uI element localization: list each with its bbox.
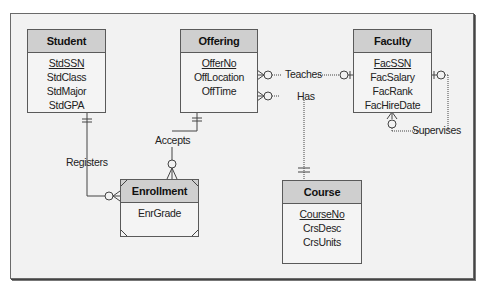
entity-title: Student xyxy=(28,30,105,53)
weak-entity-corner-icon xyxy=(190,228,198,236)
attribute: OffTime xyxy=(181,84,257,98)
entity-enrollment[interactable]: Enrollment EnrGrade xyxy=(120,179,199,237)
entity-title: Enrollment xyxy=(121,180,198,203)
attribute: CrsDesc xyxy=(283,221,361,235)
entity-attributes: OfferNo OffLocation OffTime xyxy=(181,53,257,98)
entity-attributes: FacSSN FacSalary FacRank FacHireDate xyxy=(354,53,431,112)
attribute: FacSalary xyxy=(354,70,431,84)
weak-entity-corner-icon xyxy=(121,228,129,236)
relationship-label-registers: Registers xyxy=(66,156,108,168)
has-line xyxy=(257,91,310,180)
relationship-label-teaches: Teaches xyxy=(285,68,322,80)
entity-attributes: StdSSN StdClass StdMajor StdGPA xyxy=(28,53,105,112)
relationship-label-supervises: Supervises xyxy=(412,124,461,136)
attribute: StdGPA xyxy=(28,98,105,112)
weak-entity-corner-icon xyxy=(190,180,198,188)
primary-key-attribute: StdSSN xyxy=(28,56,105,70)
entity-title: Course xyxy=(283,181,361,204)
attribute: FacRank xyxy=(354,84,431,98)
relationship-label-accepts: Accepts xyxy=(155,134,190,146)
entity-title: Faculty xyxy=(354,30,431,53)
entity-course[interactable]: Course CourseNo CrsDesc CrsUnits xyxy=(282,180,362,264)
attribute: OffLocation xyxy=(181,70,257,84)
primary-key-attribute: OfferNo xyxy=(181,56,257,70)
entity-student[interactable]: Student StdSSN StdClass StdMajor StdGPA xyxy=(27,29,106,113)
attribute: StdClass xyxy=(28,70,105,84)
entity-title: Offering xyxy=(181,30,257,53)
relationship-label-has: Has xyxy=(297,90,315,102)
attribute: EnrGrade xyxy=(121,206,198,220)
entity-offering[interactable]: Offering OfferNo OffLocation OffTime xyxy=(180,29,258,113)
attribute: CrsUnits xyxy=(283,235,361,249)
entity-attributes: EnrGrade xyxy=(121,203,198,220)
entity-faculty[interactable]: Faculty FacSSN FacSalary FacRank FacHire… xyxy=(353,29,432,113)
entity-attributes: CourseNo CrsDesc CrsUnits xyxy=(283,204,361,249)
primary-key-attribute: FacSSN xyxy=(354,56,431,70)
primary-key-attribute: CourseNo xyxy=(283,207,361,221)
attribute: StdMajor xyxy=(28,84,105,98)
weak-entity-corner-icon xyxy=(121,180,129,188)
attribute: FacHireDate xyxy=(354,98,431,112)
